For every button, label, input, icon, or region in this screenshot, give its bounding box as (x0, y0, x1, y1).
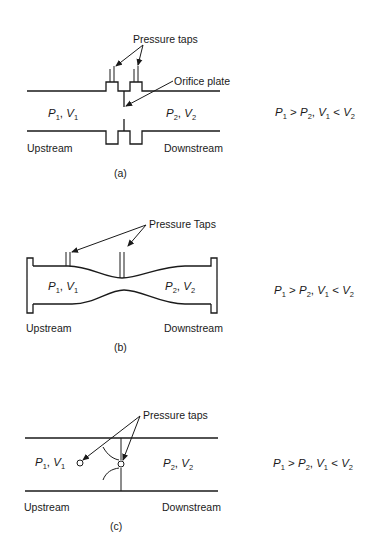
upstream-state: P1, V1 (35, 456, 65, 471)
nozzle-contour-upper (103, 447, 119, 460)
pressure-tap-tubes (66, 252, 124, 278)
flow-meter-figure: Pressure taps Orifice plate P1, V1 P2, V… (0, 0, 381, 534)
downstream-state: P2, V2 (163, 457, 193, 472)
caption-a: (a) (114, 167, 127, 179)
label-pressure-taps: Pressure taps (133, 33, 198, 45)
caption-b: (b) (114, 341, 127, 353)
label-downstream: Downstream (164, 322, 223, 334)
panel-c-nozzle: Pressure taps P1, V1 P2, V2 Upstream Dow… (24, 409, 353, 532)
relation-c: P1 > P2, V1 < V2 (273, 457, 353, 472)
panel-b-venturi: Pressure Taps P1, V1 P2, V2 Upstream Dow… (26, 218, 354, 353)
pressure-tap-tubes (110, 66, 138, 82)
label-downstream: Downstream (164, 142, 223, 154)
label-pressure-taps: Pressure taps (143, 409, 208, 421)
label-upstream: Upstream (27, 142, 73, 154)
upstream-state: P1, V1 (48, 280, 78, 295)
label-downstream: Downstream (162, 501, 221, 513)
pressure-tap-throat-icon (118, 461, 124, 467)
panel-a-orifice: Pressure taps Orifice plate P1, V1 P2, V… (27, 33, 355, 179)
upstream-state: P1, V1 (48, 107, 78, 122)
pressure-tap-upstream-icon (77, 460, 83, 466)
downstream-state: P2, V2 (166, 107, 196, 122)
relation-b: P1 > P2, V1 < V2 (274, 284, 354, 299)
relation-a: P1 > P2, V1 < V2 (275, 106, 355, 121)
label-upstream: Upstream (24, 501, 70, 513)
label-orifice-plate: Orifice plate (174, 75, 230, 87)
label-upstream: Upstream (26, 322, 72, 334)
caption-c: (c) (110, 520, 122, 532)
arrow-orifice-plate (126, 81, 173, 106)
label-pressure-taps: Pressure Taps (149, 218, 216, 230)
downstream-state: P2, V2 (165, 280, 195, 295)
nozzle-contour-lower (103, 468, 119, 480)
